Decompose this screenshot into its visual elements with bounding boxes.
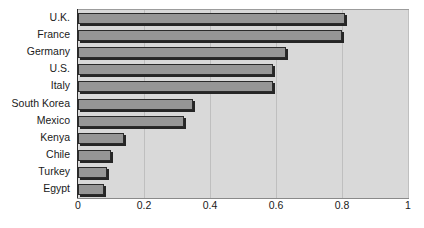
plot-area: [78, 9, 409, 198]
y-tick-label: U.K.: [0, 12, 70, 23]
bar-egypt: [78, 184, 104, 195]
x-axis-tick-labels: 00.20.40.60.81: [78, 199, 410, 215]
bar-chile: [78, 150, 111, 161]
bars-layer: [78, 10, 408, 198]
y-tick-label: Italy: [0, 80, 70, 91]
y-tick-label: Turkey: [0, 166, 70, 177]
bar-u-k: [78, 13, 345, 24]
bar-chart-figure: U.K.FranceGermanyU.S.ItalySouth KoreaMex…: [0, 0, 424, 228]
y-tick-label: Kenya: [0, 132, 70, 143]
y-tick-label: Germany: [0, 46, 70, 57]
bar-germany: [78, 47, 286, 58]
x-tick-label: 0.8: [335, 199, 350, 212]
bar-italy: [78, 81, 273, 92]
y-tick-label: Chile: [0, 149, 70, 160]
x-tick-label: 0.2: [137, 199, 152, 212]
x-tick-label: 0: [75, 199, 81, 212]
gridline-x-1: [408, 10, 409, 198]
bar-turkey: [78, 167, 107, 178]
bar-france: [78, 30, 342, 41]
x-tick-label: 0.6: [269, 199, 284, 212]
y-tick-label: France: [0, 29, 70, 40]
y-tick-label: Egypt: [0, 183, 70, 194]
bar-u-s: [78, 64, 273, 75]
x-tick-label: 1: [405, 199, 411, 212]
y-tick-label: Mexico: [0, 115, 70, 126]
bar-south-korea: [78, 99, 193, 110]
bar-mexico: [78, 116, 184, 127]
bar-kenya: [78, 133, 124, 144]
y-tick-label: South Korea: [0, 98, 70, 109]
x-tick-label: 0.4: [203, 199, 218, 212]
y-axis-category-labels: U.K.FranceGermanyU.S.ItalySouth KoreaMex…: [0, 9, 74, 197]
y-tick-label: U.S.: [0, 63, 70, 74]
